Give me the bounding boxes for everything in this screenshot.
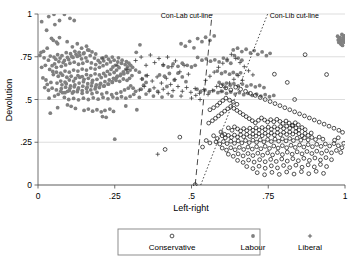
data-point	[67, 98, 71, 102]
data-point	[72, 19, 76, 23]
data-point	[121, 77, 125, 81]
data-point	[53, 94, 57, 98]
data-point	[188, 39, 192, 43]
x-tick-label: .5	[188, 191, 195, 201]
data-point	[85, 59, 89, 63]
data-point	[64, 63, 68, 67]
data-point	[68, 61, 72, 65]
data-point	[109, 60, 113, 64]
data-point	[208, 38, 212, 42]
data-point	[204, 35, 208, 39]
data-point	[78, 53, 82, 57]
data-point	[152, 94, 156, 98]
data-point	[128, 95, 132, 99]
data-point	[81, 84, 85, 88]
data-point	[93, 72, 97, 76]
data-point	[263, 93, 267, 97]
data-point	[80, 57, 84, 61]
data-point	[66, 56, 70, 60]
data-point	[66, 103, 70, 107]
data-point	[180, 75, 184, 79]
data-point	[231, 48, 235, 52]
data-point	[94, 63, 98, 67]
data-point	[76, 74, 80, 78]
data-point	[82, 109, 86, 113]
data-point	[76, 69, 80, 73]
data-point	[49, 81, 53, 85]
data-point	[86, 48, 90, 52]
data-point	[66, 89, 70, 93]
data-point	[126, 86, 130, 90]
data-point	[192, 46, 196, 50]
data-point	[220, 72, 224, 76]
data-point	[50, 64, 54, 68]
data-point	[112, 58, 116, 62]
data-point	[75, 90, 79, 94]
data-point	[58, 19, 62, 23]
data-point	[68, 16, 72, 20]
data-point	[77, 86, 81, 90]
data-point	[63, 69, 67, 73]
data-point	[100, 92, 104, 96]
data-point	[339, 43, 343, 47]
data-point	[72, 79, 76, 83]
data-point	[98, 73, 102, 77]
data-point	[48, 111, 52, 115]
data-point	[108, 107, 112, 111]
data-point	[72, 60, 76, 64]
data-point	[99, 110, 103, 114]
legend-label-labour: Labour	[241, 243, 266, 252]
x-tick-label: 1	[343, 191, 348, 201]
data-point	[69, 74, 73, 78]
data-point	[98, 61, 102, 65]
data-point	[258, 84, 262, 88]
data-point	[40, 65, 44, 69]
data-point	[70, 45, 74, 49]
data-point	[196, 37, 200, 41]
data-point	[58, 56, 62, 60]
data-point	[72, 68, 76, 72]
data-point	[70, 55, 74, 59]
data-point	[253, 85, 257, 89]
data-point	[48, 54, 52, 58]
data-point	[85, 90, 89, 94]
data-point	[101, 115, 105, 119]
data-point	[120, 58, 124, 62]
data-point	[213, 58, 217, 62]
data-point	[81, 61, 85, 65]
data-point	[96, 97, 100, 101]
data-point	[70, 91, 74, 95]
data-point	[170, 94, 174, 98]
data-point	[102, 84, 106, 88]
data-point	[135, 108, 139, 112]
data-point	[86, 98, 90, 102]
data-point	[231, 71, 235, 75]
data-point	[252, 49, 256, 53]
data-point	[85, 73, 89, 77]
data-point	[112, 110, 116, 114]
data-point	[103, 80, 107, 84]
data-point	[90, 61, 94, 65]
data-point	[74, 52, 78, 56]
data-point	[89, 88, 93, 92]
data-point	[101, 96, 105, 100]
data-point	[67, 70, 71, 74]
data-point	[105, 91, 109, 95]
data-point	[80, 67, 84, 71]
data-point	[45, 83, 49, 87]
data-point	[118, 74, 122, 78]
data-point	[50, 86, 54, 90]
data-point	[217, 60, 221, 64]
data-point	[54, 57, 58, 61]
data-point	[77, 81, 81, 85]
data-point	[144, 92, 148, 96]
data-point	[98, 65, 102, 69]
data-point	[134, 89, 138, 93]
y-tick-label: .75	[20, 52, 32, 62]
data-point	[176, 64, 180, 68]
data-point	[65, 40, 69, 44]
data-point	[45, 46, 49, 50]
data-point	[102, 72, 106, 76]
data-point	[93, 67, 97, 71]
data-point	[119, 90, 123, 94]
